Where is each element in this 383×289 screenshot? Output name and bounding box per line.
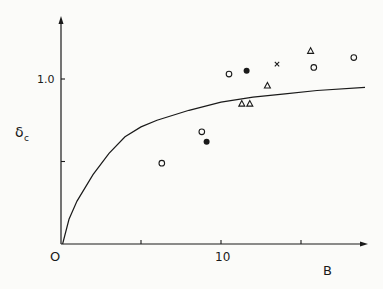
- x-axis-label: B: [323, 263, 332, 278]
- x-tick-label: 10: [215, 250, 230, 264]
- triangle-point: [247, 101, 253, 107]
- axes: [59, 16, 369, 247]
- data-points: [159, 48, 357, 166]
- triangle-point: [239, 101, 245, 107]
- cross-point: [275, 62, 279, 66]
- y-tick-label: 1.0: [37, 73, 55, 86]
- y-axis-arrow-icon: [59, 16, 64, 24]
- open-circle-point: [159, 160, 165, 166]
- open-circle-point: [226, 71, 232, 77]
- y-axis-label: δ: [15, 124, 24, 140]
- triangle-point: [264, 82, 270, 88]
- filled-circle-point: [244, 68, 250, 74]
- x-axis-arrow-icon: [360, 242, 368, 247]
- filled-circle-point: [204, 139, 210, 145]
- open-circle-point: [351, 55, 357, 61]
- open-circle-point: [311, 65, 317, 71]
- origin-label: O: [50, 249, 60, 264]
- tick-labels: 101.0: [37, 73, 230, 264]
- y-axis-label-subscript: c: [24, 133, 29, 143]
- chart: O B δ c 101.0: [0, 0, 383, 289]
- theory-curve: [63, 87, 365, 244]
- open-circle-point: [199, 129, 205, 135]
- triangle-point: [308, 48, 314, 54]
- ticks: [61, 79, 301, 244]
